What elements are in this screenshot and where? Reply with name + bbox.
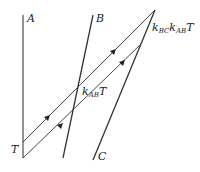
label-k-bc-k-ab-t: kBCkABT (152, 21, 195, 35)
label-c: C (98, 150, 107, 163)
arrow-icon (119, 60, 125, 66)
subscript-bc: BC (158, 27, 170, 35)
label-a: A (26, 12, 35, 25)
subscript-ab: AB (175, 27, 186, 35)
upper-signal (23, 10, 155, 142)
label-b: B (95, 12, 104, 25)
label-k-ab-t: kABT (82, 85, 108, 99)
spacetime-diagram: A B C T kABT kBCkABT (0, 0, 200, 172)
t-symbol: T (99, 85, 108, 98)
subscript-ab: AB (88, 91, 99, 99)
label-t: T (11, 143, 20, 156)
t-symbol: T (186, 21, 195, 34)
